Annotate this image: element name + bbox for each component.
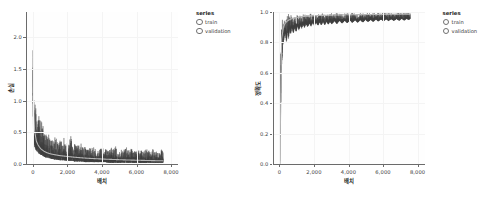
legend-item-validation[interactable]: validation xyxy=(443,28,478,35)
circle-outline-icon xyxy=(196,28,203,35)
y-axis-tick xyxy=(23,164,26,165)
x-axis-tick-label: 2,000 xyxy=(60,169,75,175)
circle-outline-icon xyxy=(443,28,450,35)
loss-y-axis-title: 손실 xyxy=(7,83,15,93)
x-axis-tick xyxy=(314,164,315,167)
y-axis-tick xyxy=(270,164,273,165)
x-axis-tick xyxy=(279,164,280,167)
gridline-vertical xyxy=(137,12,138,164)
x-axis-tick xyxy=(67,164,68,167)
legend-title: series xyxy=(443,10,478,16)
x-axis-tick-label: 4,000 xyxy=(94,169,109,175)
y-axis-tick-label: 2.0 xyxy=(8,34,22,40)
y-axis-tick-label: 0.0 xyxy=(255,161,269,167)
gridline-vertical xyxy=(67,12,68,164)
y-axis-tick xyxy=(23,101,26,102)
gridline-vertical xyxy=(349,12,350,164)
x-axis-tick xyxy=(418,164,419,167)
circle-outline-icon xyxy=(196,19,203,26)
legend-item-train[interactable]: train xyxy=(443,19,478,26)
gridline-vertical xyxy=(33,12,34,164)
y-axis-tick-label: 1.0 xyxy=(255,9,269,15)
y-axis-tick-label: 0.4 xyxy=(255,100,269,106)
y-axis-tick xyxy=(270,12,273,13)
accuracy-chart-panel: 02,0004,0006,0008,0000.00.20.40.60.81.0 … xyxy=(247,0,493,200)
legend-item-label: train xyxy=(205,19,217,25)
legend-item-validation[interactable]: validation xyxy=(196,28,231,35)
x-axis-tick xyxy=(33,164,34,167)
y-axis-tick-label: 0.8 xyxy=(255,39,269,45)
x-axis-tick xyxy=(383,164,384,167)
x-axis-tick-label: 4,000 xyxy=(341,169,356,175)
gridline-vertical xyxy=(102,12,103,164)
y-axis-line xyxy=(273,12,274,164)
legend-item-train[interactable]: train xyxy=(196,19,231,26)
y-axis-tick xyxy=(270,42,273,43)
x-axis-tick-label: 6,000 xyxy=(129,169,144,175)
x-axis-tick-label: 0 xyxy=(31,169,34,175)
loss-legend: series train validation xyxy=(196,10,231,37)
y-axis-tick-label: 0.6 xyxy=(255,70,269,76)
y-axis-tick-label: 0.2 xyxy=(255,131,269,137)
legend-item-label: validation xyxy=(205,28,231,34)
chart-pair-container: 02,0004,0006,0008,0000.00.51.01.52.0 배치 … xyxy=(0,0,493,200)
legend-item-label: train xyxy=(452,19,464,25)
accuracy-legend: series train validation xyxy=(443,10,478,37)
accuracy-x-axis-title: 배치 xyxy=(344,177,354,185)
y-axis-tick-label: 0.5 xyxy=(8,129,22,135)
series-validation-line xyxy=(279,14,409,161)
gridline-vertical xyxy=(314,12,315,164)
gridline-vertical xyxy=(279,12,280,164)
gridline-vertical xyxy=(383,12,384,164)
y-axis-line xyxy=(26,12,27,164)
x-axis-tick xyxy=(349,164,350,167)
x-axis-tick-label: 0 xyxy=(278,169,281,175)
y-axis-tick xyxy=(270,73,273,74)
legend-title: series xyxy=(196,10,231,16)
y-axis-tick xyxy=(23,132,26,133)
x-axis-tick xyxy=(137,164,138,167)
accuracy-y-axis-title: 정확도 xyxy=(254,81,262,96)
y-axis-tick-label: 1.5 xyxy=(8,66,22,72)
gridline-vertical xyxy=(418,12,419,164)
loss-chart-panel: 02,0004,0006,0008,0000.00.51.01.52.0 배치 … xyxy=(0,0,247,200)
x-axis-tick xyxy=(102,164,103,167)
y-axis-tick xyxy=(23,69,26,70)
x-axis-tick xyxy=(171,164,172,167)
y-axis-tick xyxy=(270,134,273,135)
loss-x-axis-title: 배치 xyxy=(97,177,107,185)
y-axis-tick xyxy=(270,103,273,104)
x-axis-tick-label: 8,000 xyxy=(163,169,178,175)
series-train-line xyxy=(279,12,409,163)
legend-item-label: validation xyxy=(452,28,478,34)
y-axis-tick xyxy=(23,37,26,38)
x-axis-tick-label: 2,000 xyxy=(306,169,321,175)
x-axis-tick-label: 6,000 xyxy=(375,169,390,175)
gridline-vertical xyxy=(171,12,172,164)
circle-outline-icon xyxy=(443,19,450,26)
y-axis-tick-label: 1.0 xyxy=(8,98,22,104)
y-axis-tick-label: 0.0 xyxy=(8,161,22,167)
series-train-line xyxy=(33,50,163,162)
x-axis-tick-label: 8,000 xyxy=(410,169,425,175)
